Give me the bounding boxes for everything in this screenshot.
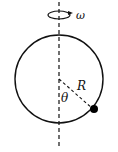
angle-label: θ [61,91,69,105]
bead [90,105,98,113]
omega-label: ω [76,9,85,22]
rotation-arrow-icon [68,11,73,15]
radius-label: R [76,79,86,93]
hoop-diagram: ω R θ [0,0,118,152]
